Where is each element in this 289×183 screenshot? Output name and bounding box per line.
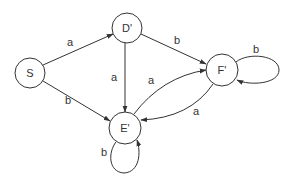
edge-label-f-self: b (253, 43, 259, 55)
state-diagram: a b b a a a b b S D' E' F' (0, 0, 289, 183)
edge-label-d-e: a (111, 71, 118, 83)
node-d: D' (112, 13, 142, 43)
edge-label-s-d: a (67, 36, 74, 48)
edge-f-to-e (141, 84, 213, 120)
edge-label-e-f: a (148, 74, 155, 86)
edge-label-s-e: b (65, 94, 71, 106)
node-s: S (15, 58, 45, 88)
edge-s-to-d (43, 34, 113, 65)
edge-s-to-e (43, 81, 110, 121)
node-f: F' (206, 54, 238, 86)
node-e-label: E' (120, 122, 129, 134)
node-f-label: F' (218, 64, 227, 76)
node-s-label: S (26, 67, 33, 79)
edge-labels: a b b a a a b b (65, 34, 259, 158)
edge-e-self-loop (111, 140, 139, 173)
edge-label-e-self: b (101, 146, 107, 158)
node-e: E' (109, 112, 141, 144)
edges (43, 34, 279, 173)
edge-label-d-f: b (174, 34, 180, 46)
edge-f-self-loop (236, 56, 279, 83)
edge-label-f-e: a (193, 105, 200, 117)
node-d-label: D' (122, 22, 132, 34)
